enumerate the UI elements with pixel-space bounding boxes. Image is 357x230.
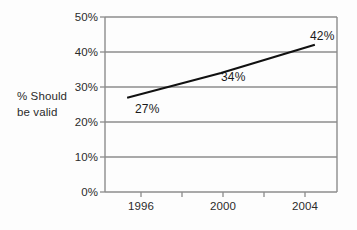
plot-area — [0, 0, 357, 230]
axis-lines — [105, 17, 337, 192]
chart-container: % Should be valid 50% 40% 30% 20% 10% 0%… — [0, 0, 357, 230]
x-axis-ticks — [141, 192, 305, 197]
series-line-should-be-valid — [128, 45, 314, 98]
gridlines — [105, 17, 337, 157]
y-axis-ticks — [100, 17, 105, 192]
